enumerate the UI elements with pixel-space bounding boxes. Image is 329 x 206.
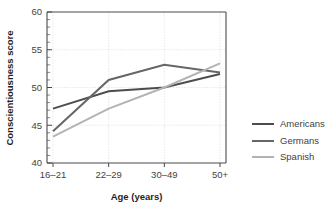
x-tick-label: 16–21 bbox=[40, 169, 66, 180]
legend-item-germans[interactable]: Germans bbox=[252, 135, 319, 146]
y-axis-tick-labels: 4045505560 bbox=[31, 6, 42, 168]
y-tick-label: 40 bbox=[31, 157, 42, 168]
legend-item-americans[interactable]: Americans bbox=[252, 118, 325, 129]
chart-figure: 4045505560 16–2122–2930–4950+ Age (years… bbox=[0, 0, 329, 206]
x-tick-label: 30–49 bbox=[151, 169, 177, 180]
y-tick-label: 60 bbox=[31, 6, 42, 17]
y-tick-label: 55 bbox=[31, 44, 42, 55]
legend-label: Spanish bbox=[280, 151, 314, 162]
line-chart-svg: 4045505560 16–2122–2930–4950+ Age (years… bbox=[0, 0, 329, 206]
legend-label: Americans bbox=[280, 118, 325, 129]
y-axis-title: Conscientiousness score bbox=[4, 30, 15, 145]
legend-label: Germans bbox=[280, 135, 319, 146]
chart-legend: AmericansGermansSpanish bbox=[252, 118, 325, 162]
legend-item-spanish[interactable]: Spanish bbox=[252, 151, 314, 162]
x-axis-tick-labels: 16–2122–2930–4950+ bbox=[40, 169, 229, 180]
y-tick-label: 45 bbox=[31, 120, 42, 131]
x-axis-title: Age (years) bbox=[111, 191, 163, 202]
y-tick-label: 50 bbox=[31, 82, 42, 93]
x-tick-label: 50+ bbox=[212, 169, 229, 180]
x-tick-label: 22–29 bbox=[95, 169, 121, 180]
x-axis-major-ticks bbox=[53, 163, 220, 167]
